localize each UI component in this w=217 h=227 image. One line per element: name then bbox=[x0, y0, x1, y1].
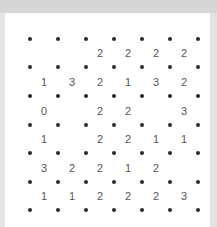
puzzle-board[interactable]: 222213213202231221132212112223 bbox=[5, 13, 210, 227]
cell-clue[interactable]: 3 bbox=[62, 75, 82, 89]
grid-dot bbox=[140, 94, 144, 98]
cell-clue[interactable] bbox=[62, 46, 82, 60]
grid-dot bbox=[196, 94, 200, 98]
window-right-frame bbox=[210, 13, 217, 227]
grid-dot bbox=[196, 37, 200, 41]
grid-dot bbox=[56, 151, 60, 155]
grid-dot bbox=[168, 180, 172, 184]
grid-dot bbox=[28, 37, 32, 41]
cell-clue[interactable]: 2 bbox=[90, 75, 110, 89]
grid-dot bbox=[112, 151, 116, 155]
cell-clue[interactable]: 2 bbox=[174, 46, 194, 60]
cell-clue[interactable] bbox=[146, 104, 166, 118]
grid-dot bbox=[168, 123, 172, 127]
cell-clue[interactable]: 1 bbox=[34, 132, 54, 146]
grid-dot bbox=[56, 65, 60, 69]
grid-dot bbox=[56, 123, 60, 127]
grid-dot bbox=[112, 208, 116, 212]
grid-dot bbox=[168, 37, 172, 41]
grid-dot bbox=[196, 151, 200, 155]
cell-clue[interactable] bbox=[62, 132, 82, 146]
grid-dot bbox=[28, 208, 32, 212]
cell-clue[interactable]: 3 bbox=[146, 75, 166, 89]
cell-clue[interactable]: 2 bbox=[118, 132, 138, 146]
cell-clue[interactable]: 2 bbox=[118, 189, 138, 203]
grid-dot bbox=[28, 65, 32, 69]
grid-dot bbox=[196, 180, 200, 184]
cell-clue[interactable]: 1 bbox=[62, 189, 82, 203]
grid-dot bbox=[140, 151, 144, 155]
window-top-frame bbox=[0, 0, 217, 13]
grid-dot bbox=[84, 208, 88, 212]
grid-dot bbox=[112, 94, 116, 98]
grid-dot bbox=[28, 123, 32, 127]
grid-dot bbox=[168, 151, 172, 155]
grid-dot bbox=[84, 151, 88, 155]
cell-clue[interactable]: 2 bbox=[90, 132, 110, 146]
cell-clue[interactable]: 2 bbox=[118, 104, 138, 118]
grid-dot bbox=[84, 94, 88, 98]
grid-dot bbox=[28, 94, 32, 98]
grid-dot bbox=[56, 94, 60, 98]
cell-clue[interactable]: 3 bbox=[34, 161, 54, 175]
cell-clue[interactable]: 1 bbox=[34, 189, 54, 203]
cell-clue[interactable] bbox=[62, 104, 82, 118]
grid-dot bbox=[112, 180, 116, 184]
cell-clue[interactable]: 3 bbox=[174, 189, 194, 203]
cell-clue[interactable]: 2 bbox=[62, 161, 82, 175]
cell-clue[interactable]: 2 bbox=[90, 104, 110, 118]
cell-clue[interactable] bbox=[34, 46, 54, 60]
cell-clue[interactable]: 1 bbox=[34, 75, 54, 89]
grid-dot bbox=[112, 123, 116, 127]
grid-dot bbox=[140, 180, 144, 184]
grid-dot bbox=[168, 208, 172, 212]
cell-clue[interactable]: 2 bbox=[146, 46, 166, 60]
grid-dot bbox=[84, 180, 88, 184]
grid-dot bbox=[84, 37, 88, 41]
cell-clue[interactable]: 1 bbox=[146, 132, 166, 146]
cell-clue[interactable]: 2 bbox=[90, 161, 110, 175]
grid-dot bbox=[28, 151, 32, 155]
grid-dot bbox=[168, 94, 172, 98]
cell-clue[interactable]: 2 bbox=[118, 46, 138, 60]
cell-clue[interactable]: 2 bbox=[146, 189, 166, 203]
grid-dot bbox=[56, 208, 60, 212]
grid-dot bbox=[196, 65, 200, 69]
grid-dot bbox=[140, 65, 144, 69]
grid-dot bbox=[84, 123, 88, 127]
cell-clue[interactable]: 1 bbox=[118, 161, 138, 175]
cell-clue[interactable]: 1 bbox=[118, 75, 138, 89]
grid-dot bbox=[140, 208, 144, 212]
grid-dot bbox=[56, 180, 60, 184]
grid-dot bbox=[84, 65, 88, 69]
cell-clue[interactable]: 2 bbox=[174, 75, 194, 89]
grid-dot bbox=[196, 208, 200, 212]
grid-dot bbox=[196, 123, 200, 127]
cell-clue[interactable]: 2 bbox=[90, 46, 110, 60]
cell-clue[interactable]: 3 bbox=[174, 104, 194, 118]
grid-dot bbox=[28, 180, 32, 184]
cell-clue[interactable]: 1 bbox=[174, 132, 194, 146]
cell-clue[interactable]: 2 bbox=[90, 189, 110, 203]
grid-dot bbox=[112, 37, 116, 41]
grid-dot bbox=[56, 37, 60, 41]
grid-dot bbox=[168, 65, 172, 69]
grid-dot bbox=[140, 37, 144, 41]
grid-dot bbox=[140, 123, 144, 127]
cell-clue[interactable] bbox=[174, 161, 194, 175]
cell-clue[interactable]: 0 bbox=[34, 104, 54, 118]
cell-clue[interactable]: 2 bbox=[146, 161, 166, 175]
grid-dot bbox=[112, 65, 116, 69]
